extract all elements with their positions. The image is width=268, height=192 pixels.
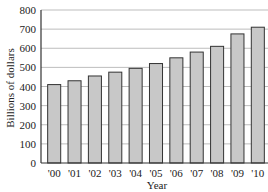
- y-tick-label: 700: [20, 23, 37, 35]
- bar-3: [109, 72, 122, 163]
- bar-5: [149, 64, 162, 163]
- y-tick-label: 400: [20, 81, 37, 93]
- y-tick-label: 300: [20, 100, 37, 112]
- x-tick-label: '02: [88, 167, 101, 179]
- y-tick-label: 200: [20, 119, 37, 131]
- y-tick-label: 0: [31, 157, 37, 169]
- x-tick-label: '00: [48, 167, 61, 179]
- x-tick-label: '05: [150, 167, 163, 179]
- bar-10: [251, 27, 264, 163]
- x-tick-labels: '00'01'02'03'04'05'06'07'08'09'10: [48, 167, 265, 179]
- bar-6: [170, 58, 183, 163]
- y-tick-label: 100: [20, 138, 37, 150]
- bar-0: [48, 85, 61, 163]
- bar-1: [68, 81, 81, 163]
- y-tick-label: 500: [20, 61, 37, 73]
- y-tick-label: 800: [20, 4, 37, 16]
- x-tick-label: '04: [129, 167, 142, 179]
- bar-2: [88, 76, 101, 163]
- x-tick-label: '07: [190, 167, 203, 179]
- x-tick-label: '03: [109, 167, 122, 179]
- bar-4: [129, 68, 142, 163]
- bars: [48, 27, 265, 163]
- x-tick-label: '08: [211, 167, 224, 179]
- bar-chart: 0100200300400500600700800 '00'01'02'03'0…: [0, 0, 268, 192]
- bar-8: [211, 46, 224, 163]
- y-axis-label: Billions of dollars: [4, 48, 16, 127]
- x-tick-label: '06: [170, 167, 183, 179]
- x-axis-label: Year: [147, 179, 168, 191]
- x-tick-label: '10: [251, 167, 264, 179]
- x-tick-label: '01: [68, 167, 81, 179]
- y-tick-label: 600: [20, 42, 37, 54]
- y-tick-labels: 0100200300400500600700800: [20, 4, 37, 169]
- bar-7: [190, 52, 203, 163]
- x-tick-label: '09: [231, 167, 244, 179]
- bar-9: [231, 34, 244, 163]
